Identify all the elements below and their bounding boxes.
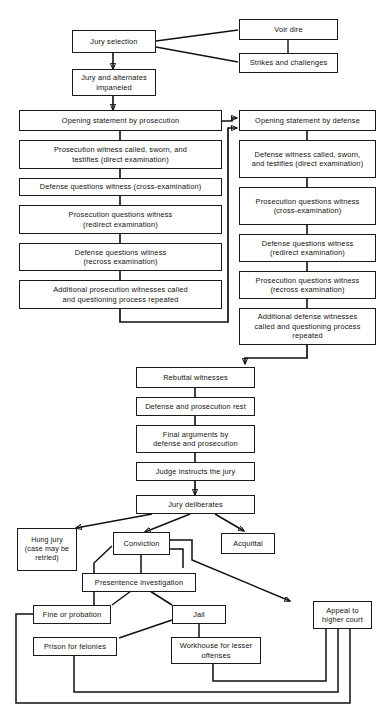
node-hung-jury[interactable]: Hung jury (case may be retried) [17, 528, 77, 571]
node-fine-or-probation[interactable]: Fine or probation [33, 605, 111, 624]
node-judge-instructs-jury[interactable]: Judge instructs the jury [136, 462, 255, 481]
node-additional-defense-witnesses[interactable]: Additional defense witnesses called and … [239, 308, 376, 345]
node-prosecution-witness-direct[interactable]: Prosecution witness called, sworn, and t… [19, 140, 222, 169]
edge-deliberates-hung [76, 514, 152, 528]
node-opening-statement-prosecution[interactable]: Opening statement by prosecution [19, 110, 222, 131]
node-prison-for-felonies[interactable]: Prison for felonies [33, 637, 117, 656]
node-voir-dire[interactable]: Voir dire [239, 19, 338, 40]
flowchart-canvas: Jury selection Voir dire Strikes and cha… [0, 0, 391, 720]
node-jury-and-alternates[interactable]: Jury and alternates impaneled [72, 69, 156, 96]
edge-jury-strikes [156, 47, 238, 62]
node-defense-recross[interactable]: Defense questions witness (recross exami… [19, 243, 222, 271]
node-conviction[interactable]: Conviction [113, 532, 170, 555]
edge-adddefense-rebuttal [245, 345, 307, 364]
edge-deliberates-acquittal [215, 514, 244, 531]
node-defense-witness-direct[interactable]: Defense witness called, sworn, and testi… [239, 140, 376, 178]
node-additional-prosecution-witnesses[interactable]: Additional prosecution witnesses called … [19, 280, 222, 309]
node-opening-statement-defense[interactable]: Opening statement by defense [239, 110, 376, 131]
edge-jail-prison [119, 620, 172, 638]
edge-openp-opend [222, 118, 237, 121]
node-prosecution-redirect[interactable]: Prosecution questions witness (redirect … [19, 205, 222, 234]
node-jail[interactable]: Jail [172, 605, 226, 624]
edge-presentence-fine [112, 591, 131, 605]
node-jury-deliberates[interactable]: Jury deliberates [136, 495, 255, 514]
node-presentence-investigation[interactable]: Presentence investigation [82, 573, 196, 592]
node-workhouse-lesser-offenses[interactable]: Workhouse for lesser offenses [171, 637, 261, 664]
node-prosecution-cross-examination[interactable]: Prosecution questions witness (cross-exa… [239, 187, 376, 225]
node-acquittal[interactable]: Acquittal [221, 533, 275, 554]
edge-deliberates-conviction [145, 514, 190, 532]
node-defense-and-prosecution-rest[interactable]: Defense and prosecution rest [136, 397, 255, 416]
edge-conviction-right2 [170, 549, 183, 568]
node-final-arguments[interactable]: Final arguments by defense and prosecuti… [136, 425, 255, 453]
edge-presentence-jail [150, 591, 172, 605]
node-defense-redirect[interactable]: Defense questions witness (redirect exam… [239, 234, 376, 262]
edge-jury-voir [156, 30, 238, 41]
node-prosecution-recross[interactable]: Prosecution questions witness (recross e… [239, 271, 376, 299]
node-appeal-higher-court[interactable]: Appeal to higher court [313, 601, 372, 629]
node-jury-selection[interactable]: Jury selection [72, 30, 156, 53]
node-strikes-and-challenges[interactable]: Strikes and challenges [239, 53, 338, 73]
node-defense-cross-examination[interactable]: Defense questions witness (cross-examina… [19, 178, 222, 196]
node-rebuttal-witnesses[interactable]: Rebuttal witnesses [136, 367, 255, 388]
